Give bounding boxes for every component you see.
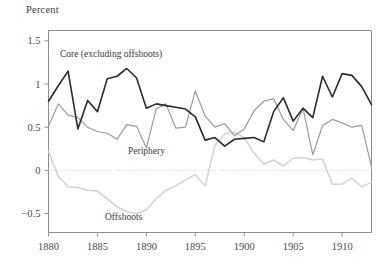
line-chart-plot: −0.500.511.5 188018851890189519001905191… (0, 0, 388, 265)
series-line-periphery (49, 91, 372, 167)
x-tick-label: 1905 (283, 241, 304, 252)
x-tick-label: 1895 (185, 241, 206, 252)
y-tick-label: 0.5 (27, 122, 40, 133)
y-tick-label: 0 (35, 165, 40, 176)
x-axis-ticks: 1880188518901895190019051910 (38, 233, 353, 252)
y-tick-label: 1.5 (27, 35, 40, 46)
data-series-group (49, 68, 372, 213)
series-line-core (49, 68, 372, 146)
y-axis-ticks: −0.500.511.5 (21, 35, 48, 219)
x-tick-label: 1880 (38, 241, 59, 252)
series-label-core: Core (excluding offshoots) (60, 49, 162, 60)
series-line-offshoots (49, 132, 372, 213)
x-tick-label: 1900 (234, 241, 255, 252)
series-label-offshoots: Offshoots (105, 212, 143, 222)
x-tick-label: 1885 (87, 241, 108, 252)
x-tick-label: 1890 (136, 241, 157, 252)
x-tick-label: 1910 (332, 241, 353, 252)
y-tick-label: 1 (35, 79, 40, 90)
y-tick-label: −0.5 (21, 208, 40, 219)
series-label-periphery: Periphery (128, 146, 165, 156)
chart-figure: Percent −0.500.511.5 1880188518901895190… (0, 0, 388, 265)
